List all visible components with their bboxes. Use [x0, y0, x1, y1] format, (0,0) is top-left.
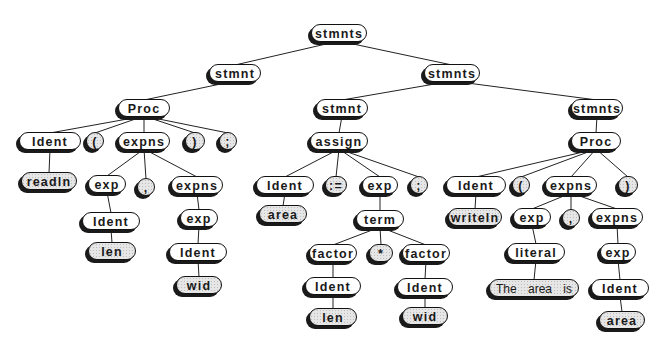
- nonterminal-node: exp: [362, 176, 398, 194]
- terminal-node: readln: [21, 172, 77, 190]
- terminal-node: (: [512, 176, 530, 194]
- nonterminal-node: Proc: [118, 99, 170, 117]
- tree-edge: [596, 116, 597, 133]
- tree-edge: [336, 149, 339, 177]
- tree-edge: [339, 41, 452, 65]
- terminal-node: area: [259, 205, 307, 223]
- terminal-node: The area is: [489, 279, 579, 297]
- tree-edge: [339, 116, 342, 133]
- tree-edge: [197, 193, 199, 210]
- nonterminal-node: Ident: [397, 278, 453, 296]
- nonterminal-node: exp: [600, 243, 636, 261]
- nonterminal-node: literal: [507, 243, 565, 261]
- nonterminal-node: stmnt: [316, 99, 368, 117]
- terminal-node: wid: [176, 276, 222, 294]
- tree-edge: [235, 41, 339, 65]
- tree-edge: [333, 227, 380, 245]
- tree-edge: [532, 193, 571, 209]
- tree-edge: [49, 149, 50, 173]
- tree-edge: [342, 81, 452, 100]
- terminal-node: wid: [402, 307, 448, 325]
- nonterminal-node: stmnts: [424, 64, 480, 82]
- terminal-node: ,: [562, 209, 580, 227]
- tree-edge: [144, 81, 235, 100]
- terminal-node: ): [618, 176, 638, 194]
- nonterminal-node: factor: [402, 244, 450, 262]
- tree-edge: [339, 149, 380, 177]
- tree-edge: [107, 192, 111, 213]
- tree-edge: [618, 260, 620, 280]
- nonterminal-node: Ident: [82, 212, 140, 230]
- nonterminal-node: Ident: [256, 176, 314, 194]
- nonterminal-node: factor: [309, 244, 357, 262]
- tree-edge: [107, 149, 144, 176]
- tree-edge: [475, 193, 476, 209]
- nonterminal-node: assign: [310, 132, 368, 150]
- nonterminal-node: expns: [545, 176, 597, 194]
- tree-edge: [452, 81, 597, 100]
- tree-edge: [198, 226, 199, 244]
- tree-edge: [620, 296, 622, 312]
- terminal-node: :=: [325, 176, 347, 194]
- tree-edge: [521, 149, 596, 177]
- tree-edge: [425, 261, 426, 279]
- tree-edge: [476, 149, 596, 177]
- terminal-node: len: [88, 242, 136, 260]
- nonterminal-node: stmnt: [209, 64, 261, 82]
- nonterminal-node: expns: [118, 132, 170, 150]
- tree-edge: [198, 260, 199, 277]
- tree-edge: [534, 260, 536, 280]
- nonterminal-node: Ident: [19, 132, 81, 150]
- tree-edge: [144, 149, 146, 179]
- tree-edge: [111, 229, 112, 243]
- nonterminal-node: expns: [591, 208, 643, 226]
- nonterminal-node: Ident: [305, 277, 361, 295]
- tree-edge: [380, 227, 426, 245]
- terminal-node: area: [599, 311, 645, 329]
- tree-edge: [144, 149, 197, 177]
- nonterminal-node: expns: [171, 176, 223, 194]
- nonterminal-node: Proc: [571, 132, 621, 150]
- tree-edge: [95, 116, 144, 133]
- tree-edge: [532, 225, 536, 244]
- parse-tree-diagram: stmntsstmntstmntsProcIdent(expns);readln…: [0, 0, 658, 347]
- nonterminal-node: exp: [513, 208, 551, 226]
- nonterminal-node: stmnts: [571, 99, 623, 117]
- nonterminal-node: Ident: [591, 279, 649, 297]
- tree-edge: [617, 225, 618, 244]
- tree-edge: [285, 149, 339, 177]
- terminal-node: ;: [410, 176, 428, 194]
- terminal-node: ): [185, 132, 205, 150]
- terminal-node: ;: [219, 132, 237, 150]
- nonterminal-node: Ident: [169, 243, 227, 261]
- terminal-node: *: [369, 244, 393, 262]
- tree-edge: [571, 193, 617, 209]
- tree-edge: [596, 149, 628, 177]
- nonterminal-node: Ident: [446, 176, 506, 194]
- tree-edge: [50, 116, 144, 133]
- nonterminal-node: stmnts: [311, 24, 367, 42]
- tree-edge: [339, 149, 419, 177]
- terminal-node: len: [309, 308, 357, 326]
- terminal-node: ,: [137, 178, 155, 196]
- tree-edge: [380, 227, 381, 245]
- nonterminal-node: exp: [180, 209, 218, 227]
- terminal-node: writeln: [448, 208, 502, 226]
- nonterminal-node: exp: [88, 175, 126, 193]
- terminal-node: (: [86, 132, 104, 150]
- nonterminal-node: term: [356, 210, 404, 228]
